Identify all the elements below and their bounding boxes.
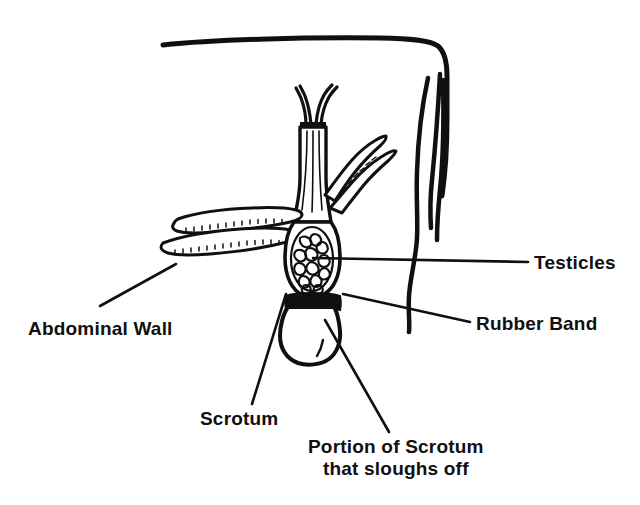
spermatic-cord <box>296 85 337 125</box>
label-scrotum: Scrotum <box>200 408 278 430</box>
leader-testicles <box>313 258 528 262</box>
label-testicles: Testicles <box>534 252 616 274</box>
leader-rubber-band <box>343 294 470 322</box>
leader-portion <box>325 320 389 432</box>
diagram-page: Testicles Rubber Band Abdominal Wall Scr… <box>0 0 640 505</box>
finger-upper-right <box>325 136 396 213</box>
label-sloughing-portion: Portion of Scrotum that sloughs off <box>308 436 484 481</box>
fingers-left <box>161 208 302 255</box>
label-abdominal-wall: Abdominal Wall <box>28 318 173 340</box>
scrotum-neck <box>294 127 331 222</box>
label-sloughing-portion-line1: Portion of Scrotum <box>308 436 484 457</box>
label-rubber-band: Rubber Band <box>476 313 597 335</box>
sloughing-scrotum <box>280 307 340 365</box>
leader-abdominal <box>100 264 176 306</box>
hind-leg <box>409 74 444 332</box>
label-sloughing-portion-line2: that sloughs off <box>308 458 484 480</box>
